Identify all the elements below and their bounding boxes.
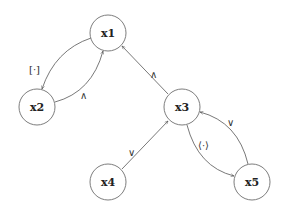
edge-label-x1-x2: [·]: [29, 64, 40, 75]
node-x4: x4: [90, 164, 126, 200]
edge-x3-x5: [187, 125, 234, 176]
edge-x4-x3: [122, 121, 168, 169]
node-x3: x3: [164, 89, 200, 125]
node-label-x3: x3: [175, 101, 189, 114]
node-x5: x5: [234, 164, 270, 200]
node-label-x4: x4: [101, 176, 116, 189]
node-label-x5: x5: [245, 176, 259, 189]
edge-label-x3-x1: ∧: [150, 69, 157, 80]
edge-x3-x1: [122, 46, 168, 94]
node-label-x2: x2: [30, 101, 44, 114]
edge-x5-x3: [200, 112, 248, 164]
diagram-canvas: [·] ∧ ∧ ∨ ⟨·⟩ ∨ x1 x2 x3 x4 x5: [0, 0, 287, 213]
edge-x1-x2: [42, 38, 91, 89]
edge-label-x2-x1: ∧: [80, 90, 87, 101]
edge-x2-x1: [55, 51, 103, 102]
node-label-x1: x1: [101, 27, 115, 40]
node-x1: x1: [90, 15, 126, 51]
edge-label-x5-x3: ∨: [227, 117, 234, 128]
node-x2: x2: [19, 89, 55, 125]
edge-label-x4-x3: ∨: [128, 147, 135, 158]
edge-label-x3-x5: ⟨·⟩: [198, 140, 209, 151]
